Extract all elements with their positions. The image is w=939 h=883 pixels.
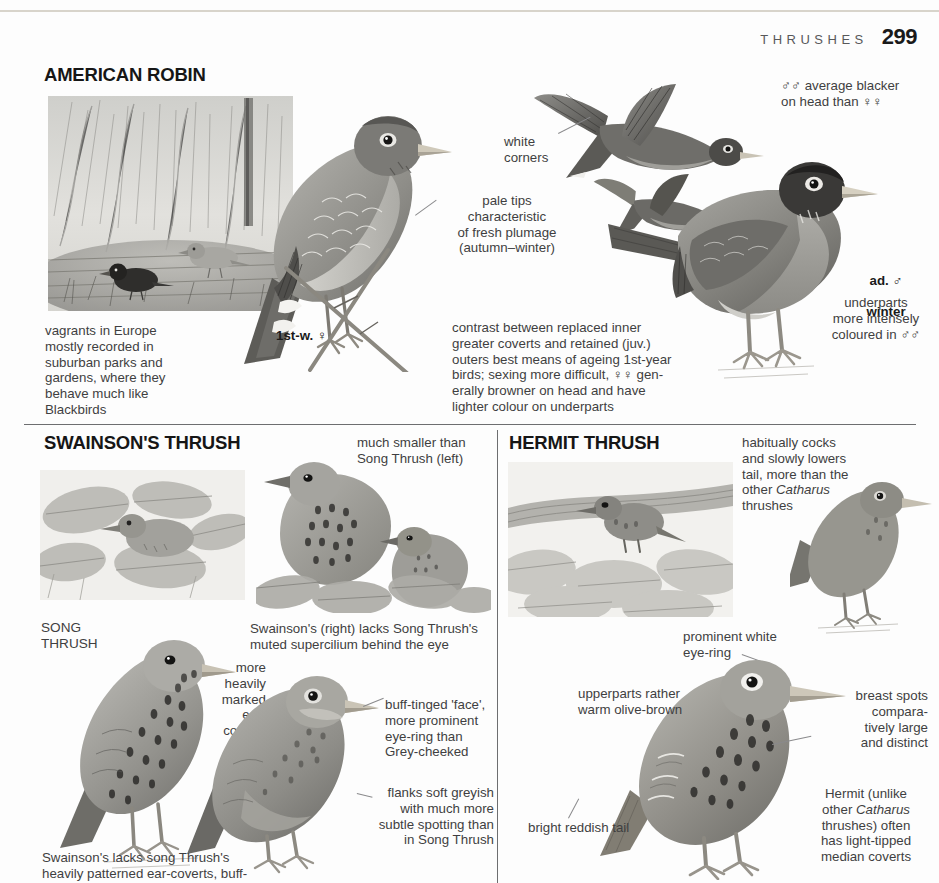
genus-name-catharus-2: Catharus bbox=[856, 802, 910, 817]
panel-divider-vertical bbox=[497, 430, 498, 883]
field-guide-page: THRUSHES 299 AMERICAN ROBIN bbox=[0, 0, 939, 883]
caption-swainsons-supercilium: Swainson's (right) lacks Song Thrush's m… bbox=[250, 621, 500, 653]
top-border-rule bbox=[0, 10, 939, 12]
caption-hermit-median-coverts-part2: thrushes) often has light-tipped median … bbox=[821, 818, 911, 865]
caption-swainsons-size: much smaller than Song Thrush (left) bbox=[357, 435, 507, 467]
caption-hermit-tail-colour: bright reddish tail bbox=[528, 820, 703, 836]
caption-hermit-breast-spots: breast spots compara- tively large and d… bbox=[810, 688, 928, 751]
leader-line-hermit-tail-colour bbox=[568, 799, 579, 819]
illustration-swainsons-habitat-scene bbox=[40, 470, 245, 600]
caption-robin-coverts-ageing: contrast between replaced inner greater … bbox=[452, 320, 712, 415]
caption-robin-white-corners: white corners bbox=[504, 134, 600, 166]
caption-robin-underparts: underparts more intensely coloured in ♂♂ bbox=[814, 295, 938, 342]
running-head: THRUSHES 299 bbox=[760, 24, 917, 50]
book-section-label: THRUSHES bbox=[760, 32, 868, 47]
label-adult-male-line1: ad. ♂ bbox=[870, 273, 903, 288]
caption-swainsons-flanks: flanks soft greyish with much more subtl… bbox=[366, 785, 494, 848]
illustration-swainsons-perched bbox=[185, 660, 380, 875]
caption-swainsons-face: buff-tinged 'face', more prominent eye-r… bbox=[385, 697, 515, 760]
caption-hermit-upperparts: upperparts rather warm olive-brown bbox=[578, 686, 738, 718]
species-title-swainsons-thrush: SWAINSON'S THRUSH bbox=[44, 432, 240, 454]
caption-robin-male-head: ♂♂ average blacker on head than ♀♀ bbox=[781, 78, 939, 110]
panel-divider-horizontal bbox=[24, 424, 916, 425]
caption-hermit-median-coverts: Hermit (unlike other Catharus thrushes) … bbox=[796, 786, 936, 865]
species-title-american-robin: AMERICAN ROBIN bbox=[44, 64, 206, 86]
label-robin-first-winter-female: 1st-w. ♀ bbox=[276, 328, 376, 344]
illustration-song-thrush-and-swainsons bbox=[256, 448, 491, 613]
caption-robin-pale-tips: pale tips characteristic of fresh plumag… bbox=[434, 193, 580, 256]
caption-swainsons-bottom-note: Swainson's lacks song Thrush's heavily p… bbox=[42, 850, 342, 882]
caption-hermit-tail-habit-part2: thrushes bbox=[742, 498, 793, 513]
caption-robin-habitat: vagrants in Europe mostly recorded in su… bbox=[45, 323, 235, 418]
illustration-hermit-log-scene bbox=[508, 462, 733, 617]
illustration-hermit-cocked-tail bbox=[790, 470, 935, 635]
species-title-hermit-thrush: HERMIT THRUSH bbox=[509, 432, 660, 454]
page-number: 299 bbox=[882, 24, 917, 50]
